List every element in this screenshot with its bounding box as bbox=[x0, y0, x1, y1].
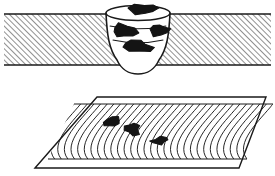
figure-canvas bbox=[0, 0, 275, 176]
weld-defect-figure bbox=[0, 0, 275, 176]
